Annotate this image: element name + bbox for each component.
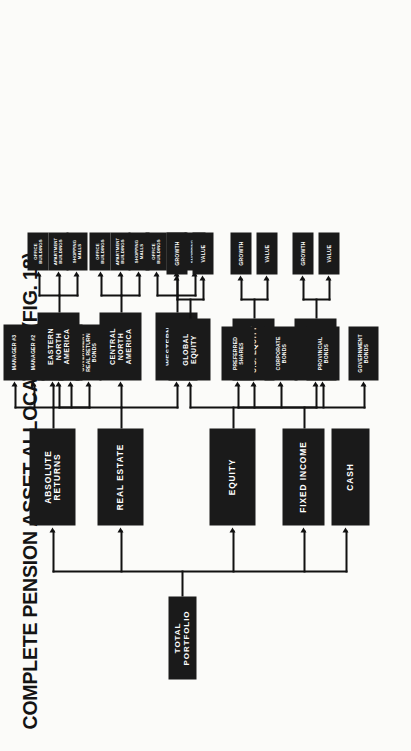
arrow-eq-canadian (312, 381, 318, 386)
arrow-eq-global (186, 381, 192, 386)
connector-ar-child-3 (33, 384, 35, 408)
node-us-growth[interactable]: GROWTH (230, 232, 251, 274)
arrow-ar-child-1 (67, 381, 73, 386)
connector-global-value (202, 278, 204, 300)
connector-fi-pref (237, 384, 239, 408)
diagram-page: COMPLETE PENSION ASSET ALLOCATION (FIG. … (0, 0, 411, 751)
connector-us-bus (240, 298, 268, 300)
connector-ar-child-4 (14, 384, 16, 408)
node-cash[interactable]: CASH (331, 428, 369, 525)
connector-east-office (38, 274, 40, 296)
arrow-equity (229, 527, 235, 532)
node-global-equity[interactable]: GLOBAL EQUITY (168, 318, 210, 380)
connector-west-office (156, 274, 158, 296)
connector-west-mall (194, 274, 196, 296)
arrow-real-estate (117, 527, 123, 532)
node-manager-3[interactable]: MANAGER #3 (3, 324, 25, 380)
connector-central-office (100, 274, 102, 296)
connector-global-bus (176, 298, 204, 300)
arrow-re-west (173, 381, 179, 386)
arrow-can-value (325, 275, 331, 280)
connector-east-out (58, 294, 60, 312)
connector-to-absolute-returns (52, 530, 54, 572)
connector-fi-corp (280, 384, 282, 408)
connector-fi-gov (363, 384, 365, 408)
connector-root-out (181, 570, 183, 596)
node-eastern-north-america[interactable]: EASTERN NORTH AMERICA (37, 312, 79, 380)
arrow-east-apt (55, 271, 61, 276)
arrow-fi-gov (360, 381, 366, 386)
connector-us-value (266, 278, 268, 300)
node-central-north-america[interactable]: CENTRAL NORTH AMERICA (99, 312, 141, 380)
connector-ar-child-2 (52, 384, 54, 408)
arrow-can-growth (299, 275, 305, 280)
connector-re-out (120, 406, 122, 428)
connector-eq-canadian (315, 384, 317, 408)
arrow-east-office (35, 271, 41, 276)
arrow-central-apt (117, 271, 123, 276)
node-canadian-growth[interactable]: GROWTH (292, 232, 313, 274)
arrow-ar-child-3 (30, 381, 36, 386)
arrow-east-mall (73, 271, 79, 276)
node-equity[interactable]: EQUITY (209, 428, 255, 525)
node-real-estate[interactable]: REAL ESTATE (97, 428, 143, 525)
node-canadian-value[interactable]: VALUE (318, 232, 339, 274)
connector-re-child-west (176, 384, 178, 408)
arrow-fi-prov (319, 381, 325, 386)
arrow-ar-child-4 (11, 381, 17, 386)
connector-to-real-estate (120, 530, 122, 572)
connector-east-apt (58, 274, 60, 296)
node-east-office-buildings[interactable]: OFFICE BUILDINGS (27, 232, 48, 270)
connector-central-out (120, 294, 122, 312)
connector-to-cash (345, 530, 347, 572)
arrow-west-office (153, 271, 159, 276)
connector-fi-out (303, 406, 305, 428)
node-east-shopping-malls[interactable]: SHOPPING MALLS (66, 232, 87, 270)
node-absolute-returns[interactable]: ABSOLUTE RETURNS (29, 428, 75, 525)
node-central-apartment-buildings[interactable]: APARTMENT BUILDINGS (110, 232, 130, 270)
arrow-cash (342, 527, 348, 532)
node-fixed-income[interactable]: FIXED INCOME (282, 428, 324, 525)
connector-eq-us (253, 384, 255, 408)
connector-to-equity (232, 530, 234, 572)
node-total-portfolio[interactable]: TOTAL PORTFOLIO (168, 596, 196, 679)
arrow-fi-corp (277, 381, 283, 386)
node-government-bonds[interactable]: GOVERNMENT BONDS (348, 326, 378, 380)
connector-re-bus (58, 406, 178, 408)
node-corporate-bonds[interactable]: CORPORATE BONDS (264, 326, 297, 380)
arrow-global-growth (173, 275, 179, 280)
node-global-value[interactable]: VALUE (192, 232, 213, 274)
arrow-central-mall (135, 271, 141, 276)
connector-can-bus (302, 298, 330, 300)
arrow-central-office (97, 271, 103, 276)
arrow-us-value (263, 275, 269, 280)
node-provincial-bonds[interactable]: PROVINCIAL BONDS (306, 326, 339, 380)
diagram-canvas: COMPLETE PENSION ASSET ALLOCATION (FIG. … (0, 0, 411, 751)
connector-eq-global (189, 384, 191, 408)
arrow-ar-child-2 (49, 381, 55, 386)
connector-can-value (328, 278, 330, 300)
connector-fi-prov (322, 384, 324, 408)
arrow-re-central (117, 381, 123, 386)
connector-re-child-east (58, 384, 60, 408)
node-central-shopping-malls[interactable]: SHOPPING MALLS (128, 232, 149, 270)
arrow-eq-us (250, 381, 256, 386)
arrow-fixed-income (300, 527, 306, 532)
connector-eq-out (232, 406, 234, 428)
connector-re-child-central (120, 384, 122, 408)
connector-fi-bus (237, 406, 365, 408)
node-us-value[interactable]: VALUE (256, 232, 277, 274)
connector-us-growth (240, 278, 242, 300)
node-global-growth[interactable]: GROWTH (166, 232, 187, 274)
connector-ar-out (52, 406, 54, 428)
arrow-global-value (199, 275, 205, 280)
arrow-re-east (55, 381, 61, 386)
connector-global-growth (176, 278, 178, 300)
node-central-office-buildings[interactable]: OFFICE BUILDINGS (89, 232, 110, 270)
connector-central-apt (120, 274, 122, 296)
node-east-apartment-buildings[interactable]: APARTMENT BUILDINGS (48, 232, 68, 270)
connector-ar-child-0 (88, 384, 90, 408)
arrow-us-growth (237, 275, 243, 280)
node-preferred-shares[interactable]: PREFERRED SHARES (221, 326, 254, 380)
arrow-absolute-returns (49, 527, 55, 532)
